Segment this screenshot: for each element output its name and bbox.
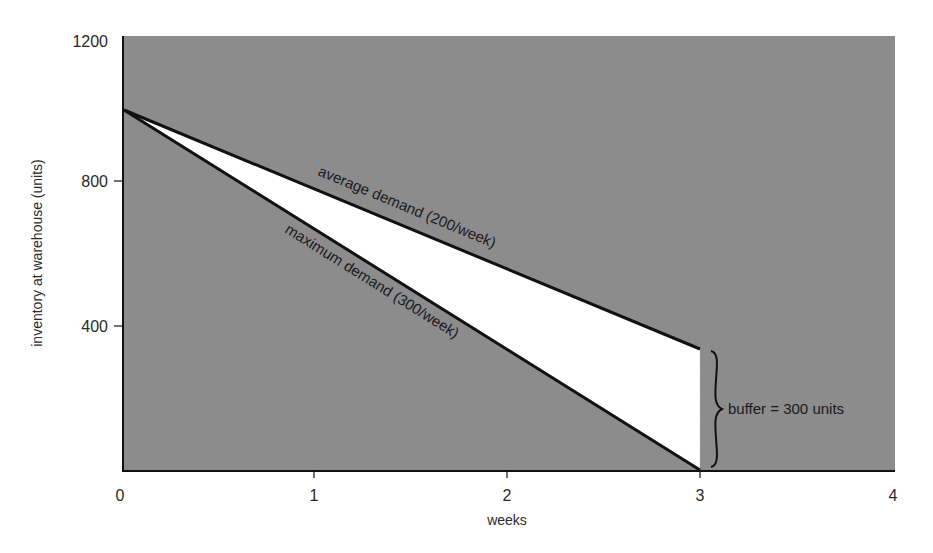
x-axis-label: weeks	[486, 512, 527, 528]
y-tick-label: 800	[81, 173, 108, 190]
x-tick-label: 2	[503, 487, 512, 504]
buffer-annotation: buffer = 300 units	[728, 400, 844, 417]
x-tick-label: 0	[116, 487, 125, 504]
x-tick-label: 3	[696, 487, 705, 504]
x-tick-label: 4	[889, 487, 898, 504]
inventory-chart: 1200 800 400 0 1 2 3 4 weeks inventory a…	[0, 0, 933, 553]
y-tick-label: 1200	[72, 33, 108, 50]
x-tick-label: 1	[310, 487, 319, 504]
y-axis-label: inventory at warehouse (units)	[29, 159, 45, 347]
y-tick-label: 400	[81, 318, 108, 335]
